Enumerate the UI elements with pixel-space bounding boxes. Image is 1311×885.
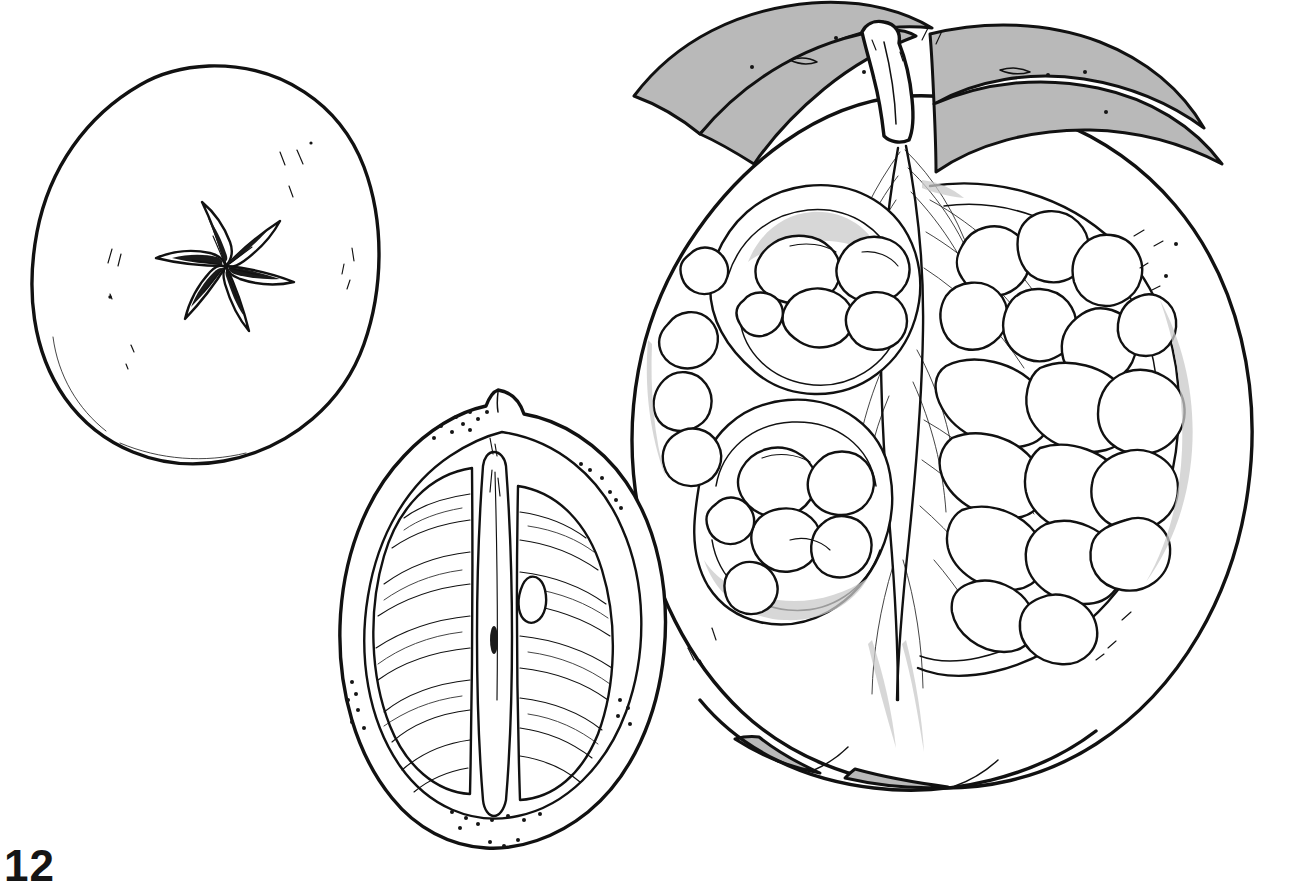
lemon-seed (519, 577, 547, 623)
figure-pomegranate-section (632, 2, 1252, 790)
arils-upper-left (737, 236, 910, 350)
lemon-central-column (477, 452, 512, 816)
page-number: 12 (4, 844, 55, 885)
